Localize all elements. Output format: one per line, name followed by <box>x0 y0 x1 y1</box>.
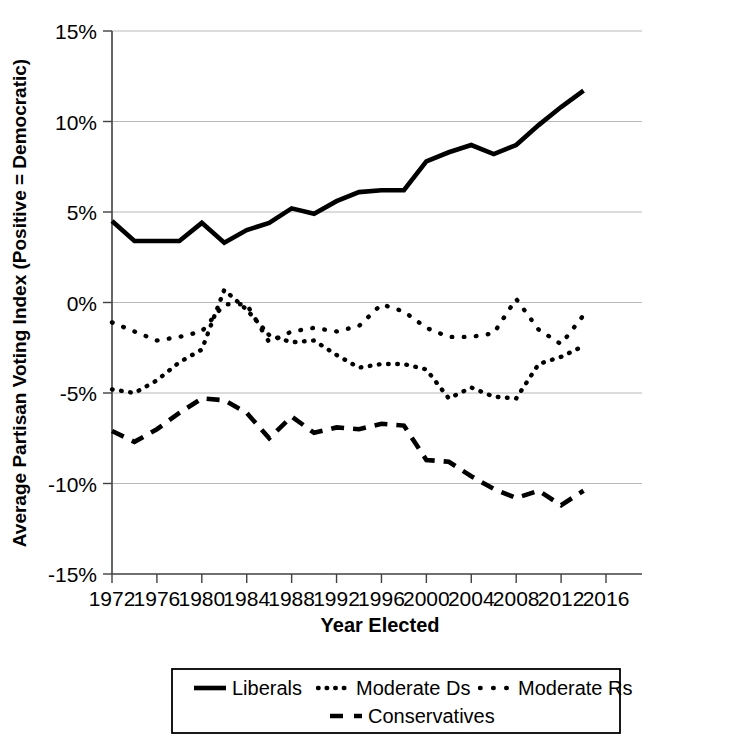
x-tick-label-2012: 2012 <box>538 587 585 610</box>
y-tick-label-0: 0% <box>67 292 97 315</box>
x-tick-label-1992: 1992 <box>313 587 360 610</box>
x-tick-label-1980: 1980 <box>178 587 225 610</box>
legend-label-conservatives: Conservatives <box>368 705 495 727</box>
x-axis-ticks-group: 1972197619801984198819921996200020042008… <box>89 574 630 610</box>
y-tick-label--10: -10% <box>48 473 97 496</box>
x-tick-label-1996: 1996 <box>358 587 405 610</box>
chart-legend: LiberalsModerate DsModerate RsConservati… <box>172 669 633 733</box>
x-tick-label-2016: 2016 <box>583 587 630 610</box>
x-tick-label-1976: 1976 <box>134 587 181 610</box>
data-series-group <box>112 91 584 505</box>
x-tick-label-1984: 1984 <box>223 587 270 610</box>
x-tick-label-2008: 2008 <box>493 587 540 610</box>
x-tick-label-2004: 2004 <box>448 587 495 610</box>
series-liberals <box>112 91 584 243</box>
y-tick-label-15: 15% <box>55 20 97 43</box>
y-tick-label--15: -15% <box>48 563 97 586</box>
legend-label-liberals: Liberals <box>232 677 302 699</box>
series-moderate-rs <box>112 299 584 344</box>
x-tick-label-2000: 2000 <box>403 587 450 610</box>
legend-label-moderate-ds: Moderate Ds <box>356 677 471 699</box>
legend-label-moderate-rs: Moderate Rs <box>518 677 633 699</box>
y-tick-label--5: -5% <box>60 382 97 405</box>
chart-container: 15%10%5%0%-5%-10%-15% 197219761980198419… <box>0 0 754 748</box>
x-axis-title: Year Elected <box>321 614 440 636</box>
y-axis-ticks-group: 15%10%5%0%-5%-10%-15% <box>48 20 112 586</box>
series-moderate-ds <box>112 290 584 399</box>
series-conservatives <box>112 398 584 505</box>
y-axis-title: Average Partisan Voting Index (Positive … <box>9 59 30 547</box>
x-tick-label-1988: 1988 <box>268 587 315 610</box>
gridlines-group <box>112 31 642 484</box>
partisan-voting-index-line-chart: 15%10%5%0%-5%-10%-15% 197219761980198419… <box>0 0 754 748</box>
x-tick-label-1972: 1972 <box>89 587 136 610</box>
y-tick-label-5: 5% <box>67 201 97 224</box>
y-tick-label-10: 10% <box>55 111 97 134</box>
